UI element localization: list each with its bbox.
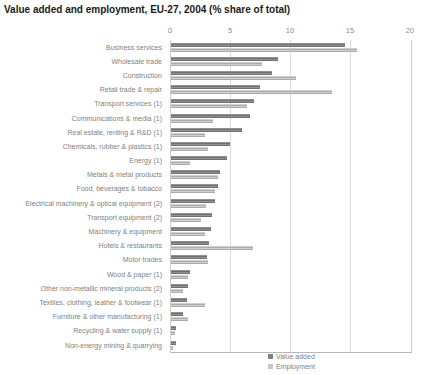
- bar-employment: [171, 133, 205, 137]
- category-label: Communications & media (1): [0, 111, 166, 125]
- plot-area: [170, 40, 412, 353]
- bar-employment: [171, 175, 218, 179]
- bar-value-added: [171, 128, 242, 132]
- bar-employment: [171, 317, 188, 321]
- bar-employment: [171, 346, 173, 350]
- bar-value-added: [171, 57, 278, 61]
- chart-row: [171, 295, 411, 309]
- chart-row: [171, 224, 411, 238]
- bar-employment: [171, 275, 188, 279]
- tick-label: 5: [228, 26, 232, 35]
- legend: Value addedEmployment: [268, 352, 315, 371]
- chart-row: [171, 281, 411, 295]
- category-labels: Business servicesWholesale tradeConstruc…: [0, 40, 166, 352]
- chart-row: [171, 253, 411, 267]
- tick-label: 15: [346, 26, 354, 35]
- category-label: Recycling & water supply (1): [0, 324, 166, 338]
- bar-chart: Value added and employment, EU-27, 2004 …: [0, 0, 427, 375]
- bar-value-added: [171, 199, 215, 203]
- bar-value-added: [171, 71, 272, 75]
- bar-value-added: [171, 298, 187, 302]
- legend-swatch: [268, 364, 273, 369]
- category-label: Non-energy mining & quarrying: [0, 338, 166, 352]
- chart-row: [171, 68, 411, 82]
- category-label: Textiles, clothing, leather & footwear (…: [0, 295, 166, 309]
- bar-employment: [171, 331, 175, 335]
- legend-label: Employment: [276, 363, 315, 370]
- category-label: Other non-metallic mineral products (2): [0, 281, 166, 295]
- category-label: Food, beverages & tobacco: [0, 182, 166, 196]
- category-label: Business services: [0, 40, 166, 54]
- chart-row: [171, 139, 411, 153]
- chart-row: [171, 310, 411, 324]
- bar-employment: [171, 90, 332, 94]
- bar-employment: [171, 147, 208, 151]
- bar-employment: [171, 161, 190, 165]
- chart-row: [171, 324, 411, 338]
- category-label: Retail trade & repair: [0, 83, 166, 97]
- x-axis-ticks: 05101520: [170, 26, 410, 36]
- chart-row: [171, 338, 411, 352]
- legend-swatch: [268, 354, 273, 359]
- chart-row: [171, 111, 411, 125]
- tick-label: 10: [286, 26, 294, 35]
- category-label: Real estate, renting & R&D (1): [0, 125, 166, 139]
- category-label: Motor trades: [0, 253, 166, 267]
- bar-value-added: [171, 85, 260, 89]
- chart-row: [171, 182, 411, 196]
- category-label: Wholesale trade: [0, 54, 166, 68]
- bar-value-added: [171, 170, 220, 174]
- category-label: Transport equipment (2): [0, 210, 166, 224]
- bar-value-added: [171, 284, 188, 288]
- bar-employment: [171, 48, 357, 52]
- bar-value-added: [171, 156, 227, 160]
- chart-row: [171, 83, 411, 97]
- bar-value-added: [171, 270, 190, 274]
- chart-row: [171, 125, 411, 139]
- bar-value-added: [171, 326, 176, 330]
- bar-value-added: [171, 241, 209, 245]
- category-label: Hotels & restaurants: [0, 239, 166, 253]
- chart-row: [171, 196, 411, 210]
- bar-employment: [171, 119, 213, 123]
- category-label: Metals & metal products: [0, 168, 166, 182]
- chart-row: [171, 54, 411, 68]
- bar-value-added: [171, 114, 250, 118]
- bar-value-added: [171, 227, 211, 231]
- category-label: Machinery & equipment: [0, 224, 166, 238]
- legend-item: Employment: [268, 362, 315, 371]
- chart-row: [171, 168, 411, 182]
- bar-employment: [171, 289, 183, 293]
- category-label: Electrical machinery & optical equipment…: [0, 196, 166, 210]
- bar-employment: [171, 303, 205, 307]
- chart-row: [171, 210, 411, 224]
- bar-employment: [171, 204, 206, 208]
- bar-employment: [171, 104, 247, 108]
- bar-employment: [171, 218, 201, 222]
- category-label: Furniture & other manufacturing (1): [0, 310, 166, 324]
- tick-label: 20: [406, 26, 414, 35]
- chart-title: Value added and employment, EU-27, 2004 …: [4, 4, 290, 15]
- bar-value-added: [171, 142, 230, 146]
- bar-value-added: [171, 184, 218, 188]
- bar-employment: [171, 260, 208, 264]
- bar-employment: [171, 76, 296, 80]
- bar-value-added: [171, 43, 345, 47]
- bar-value-added: [171, 341, 176, 345]
- bar-employment: [171, 62, 262, 66]
- legend-item: Value added: [268, 352, 315, 361]
- chart-row: [171, 239, 411, 253]
- bar-value-added: [171, 99, 254, 103]
- bar-employment: [171, 189, 215, 193]
- category-label: Transport services (1): [0, 97, 166, 111]
- bar-employment: [171, 232, 205, 236]
- bar-value-added: [171, 213, 212, 217]
- category-label: Chemicals, rubber & plastics (1): [0, 139, 166, 153]
- chart-row: [171, 154, 411, 168]
- category-label: Wood & paper (1): [0, 267, 166, 281]
- category-label: Energy (1): [0, 154, 166, 168]
- legend-label: Value added: [276, 353, 315, 360]
- bar-employment: [171, 246, 253, 250]
- category-label: Construction: [0, 68, 166, 82]
- bar-value-added: [171, 255, 207, 259]
